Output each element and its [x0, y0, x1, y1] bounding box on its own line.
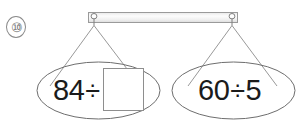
right-operand-b: 5 — [246, 74, 262, 106]
balance-bar — [89, 13, 238, 23]
left-division-sign: ÷ — [84, 76, 100, 106]
balance-scale-illustration — [0, 0, 306, 127]
right-division-sign: ÷ — [229, 76, 245, 106]
right-expression: 60÷5 — [198, 74, 261, 107]
left-operand-a: 84 — [53, 74, 84, 106]
worksheet-problem-canvas: ⑩ — [0, 0, 306, 127]
left-expression: 84÷ — [53, 74, 101, 107]
right-operand-a: 60 — [198, 74, 229, 106]
answer-input-box[interactable] — [104, 69, 144, 111]
